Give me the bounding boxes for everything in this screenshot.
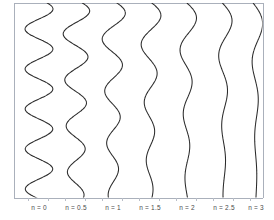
series-label: n = 2.5 bbox=[213, 205, 234, 212]
series-label: n = 1.5 bbox=[139, 205, 160, 212]
plot-background bbox=[0, 0, 274, 220]
series-label: n = 0.5 bbox=[65, 205, 86, 212]
series-label: n = 2 bbox=[179, 205, 195, 212]
figure-container: n = 0n = 0.5n = 1n = 1.5n = 2n = 2.5n = … bbox=[0, 0, 274, 220]
plot-canvas bbox=[0, 0, 274, 220]
series-label: n = 0 bbox=[31, 205, 47, 212]
series-label: n = 3 bbox=[248, 205, 264, 212]
series-label: n = 1 bbox=[105, 205, 121, 212]
